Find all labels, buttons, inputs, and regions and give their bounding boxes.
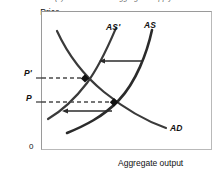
curve-label-as: AS (144, 20, 156, 30)
x-axis-label: Aggregate output (118, 158, 183, 168)
price-tick-label-p-prime: P' (24, 68, 32, 78)
curve-label-ad: AD (170, 123, 183, 133)
curve-as (67, 30, 152, 133)
supply-shift-arrow (99, 58, 143, 63)
origin-label: 0 (29, 142, 33, 151)
figure-canvas: (b) An increase in aggregate supply Pric… (0, 0, 223, 173)
curve-ad (57, 31, 166, 128)
marker-initial-equilibrium (110, 98, 118, 106)
curve-as-prime (48, 28, 116, 119)
price-tick-label-p: P (26, 93, 32, 103)
curve-label-as-prime: AS' (106, 22, 120, 32)
